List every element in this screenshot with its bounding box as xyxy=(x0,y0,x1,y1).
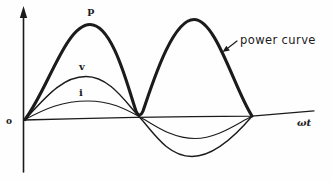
power-curve-annotation: power curve xyxy=(240,33,316,47)
current-label: i xyxy=(79,87,83,98)
x-axis xyxy=(24,111,314,120)
voltage-label: v xyxy=(78,61,86,72)
y-axis-arrowhead-icon xyxy=(20,6,27,18)
current-curve xyxy=(25,101,252,139)
origin-label: o xyxy=(6,116,12,126)
power-peak-label: p xyxy=(88,5,95,16)
diagram-canvas: p v i o ωt power curve xyxy=(0,0,332,182)
x-axis-label: ωt xyxy=(297,117,312,128)
waveform-diagram: p v i o ωt power curve xyxy=(0,0,332,182)
